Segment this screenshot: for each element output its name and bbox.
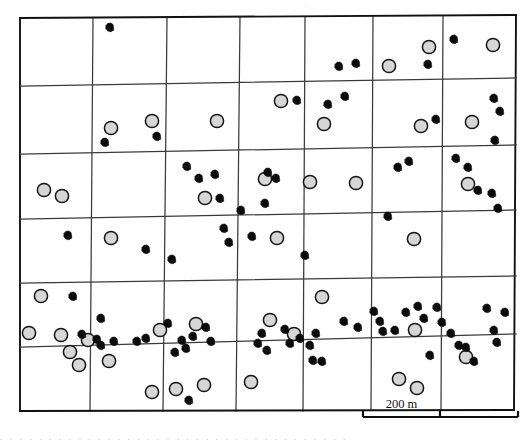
marker-filled-blob [189, 332, 197, 341]
marker-filled-blob [281, 325, 289, 334]
marker-filled-blob [340, 317, 348, 326]
marker-filled-blob [376, 317, 384, 326]
marker-filled-blob [254, 339, 262, 348]
marker-filled-blob [261, 199, 269, 208]
marker-filled-blob [452, 154, 460, 163]
marker-filled-blob [296, 334, 304, 343]
marker-open-circle [461, 177, 474, 190]
grid-line-horizontal [20, 410, 514, 411]
marker-filled-blob [420, 314, 428, 323]
marker-open-circle [349, 176, 362, 189]
marker-filled-blob [493, 338, 501, 347]
marker-filled-blob [433, 303, 441, 312]
marker-filled-blob [106, 23, 114, 32]
marker-open-circle [189, 317, 202, 330]
marker-filled-blob [309, 356, 317, 365]
marker-open-circle [263, 313, 276, 326]
marker-filled-blob [447, 329, 455, 338]
marker-open-circle [37, 183, 50, 196]
marker-filled-blob [237, 206, 245, 215]
marker-open-circle [270, 231, 283, 244]
scale-bar-label: 200 m [386, 397, 418, 411]
marker-filled-blob [153, 132, 161, 141]
grid-line-horizontal [20, 78, 516, 86]
marker-filled-blob [248, 232, 256, 241]
marker-filled-blob [496, 107, 504, 116]
marker-filled-blob [264, 168, 272, 177]
marker-filled-blob [370, 307, 378, 316]
marker-open-circle [392, 372, 405, 385]
marker-filled-blob [394, 163, 402, 172]
marker-open-circle [414, 119, 427, 132]
marker-filled-blob [432, 115, 440, 124]
grid-line-vertical [514, 15, 516, 410]
marker-filled-blob [110, 337, 118, 346]
marker-open-circle [54, 328, 67, 341]
marker-filled-blob [286, 339, 294, 348]
marker-filled-blob [220, 224, 228, 233]
marker-open-circle [315, 290, 328, 303]
marker-filled-blob [462, 343, 470, 352]
marker-open-circle [145, 114, 158, 127]
marker-filled-blob [450, 35, 458, 44]
marker-filled-blob [324, 100, 332, 109]
marker-filled-blob [101, 138, 109, 147]
marker-open-circle [465, 115, 478, 128]
marker-open-circle [104, 121, 117, 134]
marker-filled-blob [258, 329, 266, 338]
grid-line-vertical [90, 18, 93, 411]
marker-open-circle [22, 326, 35, 339]
marker-open-circle [303, 175, 316, 188]
marker-open-circle [422, 40, 435, 53]
marker-filled-blob [474, 186, 482, 195]
marker-open-circle [210, 114, 223, 127]
marker-open-circle [104, 231, 117, 244]
marker-open-circle [34, 289, 47, 302]
marker-filled-blob [225, 238, 233, 247]
marker-filled-blob [501, 308, 509, 317]
marker-filled-blob [142, 245, 150, 254]
marker-filled-blob [142, 334, 150, 343]
marker-filled-blob [483, 304, 491, 313]
marker-open-circle [408, 323, 421, 336]
marker-filled-blob [97, 314, 105, 323]
marker-filled-blob [494, 204, 502, 213]
marker-filled-blob [97, 341, 105, 350]
marker-open-circle [244, 375, 257, 388]
marker-open-circle [72, 358, 85, 371]
grid-line-horizontal [20, 145, 516, 154]
marker-filled-blob [211, 170, 219, 179]
marker-filled-blob [202, 323, 210, 332]
marker-filled-blob [426, 351, 434, 360]
marker-open-circle [407, 232, 420, 245]
marker-open-circle [274, 94, 287, 107]
marker-filled-blob [391, 326, 399, 335]
marker-filled-blob [318, 357, 326, 366]
bottom-caption-artifact: . . . . . . . . . . . . . . . . . . . . … [0, 432, 532, 442]
marker-open-circle [410, 381, 423, 394]
grid-line-vertical [441, 16, 443, 410]
marker-filled-blob [464, 163, 472, 172]
marker-filled-blob [438, 318, 446, 327]
grid-line-horizontal [20, 15, 516, 18]
marker-open-circle [102, 354, 115, 367]
marker-filled-blob [354, 323, 362, 332]
marker-filled-blob [183, 162, 191, 171]
marker-filled-blob [64, 231, 72, 240]
marker-filled-blob [263, 346, 271, 355]
marker-filled-blob [272, 174, 280, 183]
marker-filled-blob [490, 326, 498, 335]
marker-open-circle [63, 345, 76, 358]
marker-open-circle [145, 385, 158, 398]
marker-open-circle [317, 117, 330, 130]
marker-filled-blob [490, 94, 498, 103]
marker-filled-blob [185, 396, 193, 405]
marker-filled-blob [491, 136, 499, 145]
marker-filled-blob [178, 336, 186, 345]
marker-filled-blob [335, 62, 343, 71]
marker-filled-blob [306, 341, 314, 350]
marker-filled-blob [384, 212, 392, 221]
marker-filled-blob [133, 337, 141, 346]
marker-open-circle [197, 378, 210, 391]
grid-line-vertical [163, 18, 167, 411]
